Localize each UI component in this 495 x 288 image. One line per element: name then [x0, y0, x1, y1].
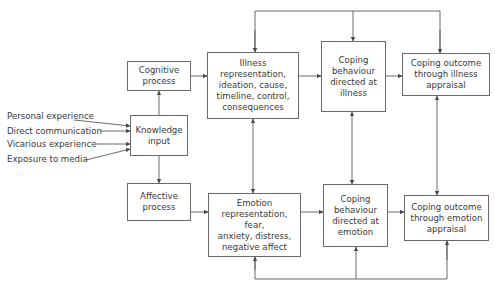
node-emotion-representation: Emotion representation, fear, anxiety, d… — [208, 193, 301, 257]
input-exposure-to-media: Exposure to media — [7, 154, 88, 164]
node-coping-behaviour-emotion: Coping behaviour directed at emotion — [323, 184, 388, 247]
node-illness-representation: Illness representation, ideation, cause,… — [207, 52, 299, 119]
input-personal-experience: Personal experience — [7, 111, 94, 121]
arrow-media-to-knowledge — [86, 149, 130, 160]
illness-coping-diagram: Personal experience Direct communication… — [0, 0, 495, 288]
node-coping-outcome-emotion: Coping outcome through emotion appraisal — [404, 195, 489, 241]
node-coping-behaviour-illness: Coping behaviour directed at illness — [321, 41, 386, 112]
input-direct-communication: Direct communication — [7, 126, 102, 136]
node-coping-outcome-illness: Coping outcome through illness appraisal — [402, 53, 490, 96]
node-cognitive-process: Cognitive process — [127, 61, 191, 91]
node-knowledge-input: Knowledge input — [130, 115, 188, 156]
input-vicarious-experience: Vicarious experience — [7, 139, 97, 149]
node-affective-process: Affective process — [127, 183, 191, 221]
